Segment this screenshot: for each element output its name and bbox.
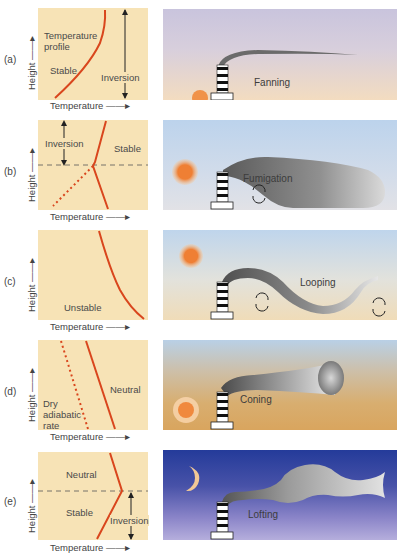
cone-end: [318, 361, 344, 395]
unstable-label: Unstable: [64, 302, 102, 313]
temperature-profile-graph: Temperature profile Stable Inversion: [38, 8, 148, 100]
smokestack-icon: [211, 282, 233, 319]
temperature-profile-label-1: Temperature: [44, 30, 97, 41]
plume-label-coning: Coning: [240, 394, 272, 405]
panel-row-e: (e) Height ——▸ Neutral Stable Inversion …: [0, 440, 397, 554]
profile-curve-icon: [38, 452, 148, 540]
inversion-label: Inversion: [45, 138, 84, 149]
rotation-arrows-icon: [373, 298, 385, 316]
smokestack-icon: [211, 65, 233, 100]
stable-label: Stable: [114, 143, 141, 154]
temperature-profile-graph: Neutral Dry adiabatic rate: [38, 340, 148, 430]
stable-label: Stable: [50, 65, 77, 76]
plume-label-lofting: Lofting: [248, 509, 278, 520]
panel-row-a: (a) Height ——▸ Temperature profile Stabl…: [0, 0, 397, 112]
dry-adiabatic-label-3: rate: [43, 420, 59, 431]
height-axis-label: Height ——▸: [26, 368, 37, 422]
smokestack-icon: [211, 502, 233, 539]
sun-rays-icon: [173, 397, 199, 423]
panel-row-c: (c) Height ——▸ Unstable Temperature ——▸: [0, 220, 397, 332]
plume-scene-fanning: Fanning: [163, 9, 397, 100]
panel-row-b: (b) Height ——▸ Inversion Stable Temperat…: [0, 110, 397, 222]
temperature-profile-graph: Unstable: [38, 230, 148, 320]
height-axis-label: Height ——▸: [26, 479, 37, 533]
plume-label-fumigation: Fumigation: [243, 173, 292, 184]
neutral-label: Neutral: [110, 384, 141, 395]
inversion-label: Inversion: [101, 72, 140, 83]
stable-label: Stable: [66, 507, 93, 518]
height-axis-label: Height ——▸: [26, 148, 37, 202]
temperature-profile-graph: Neutral Stable Inversion: [38, 452, 148, 540]
profile-curve-icon: [38, 120, 148, 210]
smokestack-icon: [211, 172, 233, 209]
plume-scene-looping: Looping: [163, 230, 397, 320]
rotation-arrows-icon: [256, 293, 268, 311]
height-axis-label: Height ——▸: [26, 258, 37, 312]
fanning-plume: [218, 50, 358, 67]
sun-setting-icon: [192, 90, 208, 100]
neutral-label: Neutral: [66, 469, 97, 480]
smokestack-icon: [211, 392, 233, 429]
dry-adiabatic-label-2: adiabatic: [43, 409, 81, 420]
profile-curve-icon: [38, 8, 148, 100]
panel-letter: (e): [4, 496, 16, 507]
sun-icon: [172, 159, 198, 185]
panel-letter: (a): [4, 54, 16, 65]
temperature-profile-graph: Inversion Stable: [38, 120, 148, 210]
lofting-plume: [222, 464, 385, 506]
plume-scene-coning: Coning: [163, 340, 397, 430]
temperature-profile-label-2: profile: [44, 41, 70, 52]
panel-letter: (b): [4, 166, 16, 177]
panel-letter: (c): [4, 276, 16, 287]
panel-letter: (d): [4, 386, 16, 397]
looping-plume: [222, 268, 378, 314]
temperature-axis-label: Temperature ——▸: [50, 542, 130, 553]
panel-row-d: (d) Height ——▸ Neutral Dry adiabatic rat…: [0, 330, 397, 442]
coning-plume: [221, 363, 335, 396]
plume-label-fanning: Fanning: [254, 77, 290, 88]
inversion-label: Inversion: [110, 515, 149, 526]
plume-label-looping: Looping: [300, 277, 336, 288]
moon-icon: [186, 466, 199, 491]
plume-scene-fumigation: Fumigation: [163, 120, 397, 210]
height-axis-label: Height ——▸: [26, 36, 37, 90]
sun-icon: [179, 244, 203, 268]
dry-adiabatic-label-1: Dry: [43, 398, 58, 409]
plume-scene-lofting: Lofting: [163, 450, 397, 540]
